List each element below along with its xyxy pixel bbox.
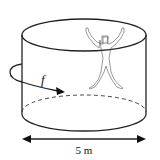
cylinder-bottom-back-arc [22, 95, 146, 112]
arrow-left-icon [22, 135, 31, 143]
diameter-dimension: 5 m [22, 135, 146, 156]
rotation-arrow: f [10, 64, 65, 95]
cylinder-bottom-front-arc [22, 114, 146, 131]
diameter-label: 5 m [76, 144, 93, 156]
rotation-arrowhead-icon [56, 87, 65, 95]
cylinder-top-ellipse [22, 19, 146, 51]
rotor-diagram: f 5 m [0, 0, 160, 160]
arrow-right-icon [137, 135, 146, 143]
person-icon [86, 28, 124, 89]
rotation-arrow-curve [10, 64, 58, 91]
rotation-label: f [41, 72, 47, 87]
